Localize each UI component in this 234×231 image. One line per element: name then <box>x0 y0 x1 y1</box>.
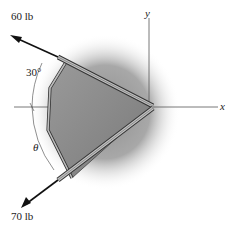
angle-label-theta: θ <box>33 141 38 153</box>
force-60-arrow <box>16 38 58 57</box>
arrowhead-70-icon <box>21 197 31 208</box>
force-70-arrow <box>26 180 58 204</box>
force-label-60: 60 lb <box>11 10 33 22</box>
arrowhead-60-icon <box>10 35 22 43</box>
force-diagram <box>0 0 234 231</box>
angle-label-30: 30° <box>26 66 41 78</box>
force-label-70: 70 lb <box>11 210 33 222</box>
x-axis-label: x <box>220 100 225 112</box>
y-axis-label: y <box>145 7 150 19</box>
